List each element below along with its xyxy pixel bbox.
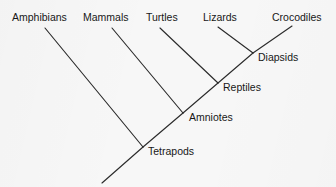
- taxon-label-amphibians: Amphibians: [12, 11, 67, 23]
- branch-root-stem: [102, 147, 143, 183]
- phylogenetic-tree-diagram: AmphibiansMammalsTurtlesLizardsCrocodile…: [0, 0, 336, 187]
- taxon-label-lizards: Lizards: [203, 11, 237, 23]
- taxon-label-turtles: Turtles: [146, 11, 178, 23]
- taxon-label-crocodiles: Crocodiles: [272, 11, 322, 23]
- branch-lizards: [218, 27, 253, 53]
- clade-label-diapsids: Diapsids: [258, 51, 298, 63]
- taxon-label-layer: AmphibiansMammalsTurtlesLizardsCrocodile…: [12, 11, 322, 23]
- branch-amphibians: [45, 28, 143, 147]
- branch-diapsids-to-reptiles: [218, 53, 253, 83]
- branch-reptiles-to-amniotes: [183, 83, 218, 113]
- taxon-label-mammals: Mammals: [83, 11, 129, 23]
- branch-turtles: [160, 28, 218, 83]
- branch-amniotes-to-tetrapods: [143, 113, 183, 147]
- branch-crocodiles: [253, 26, 292, 53]
- clade-label-layer: DiapsidsReptilesAmniotesTetrapods: [148, 51, 298, 157]
- clade-label-reptiles: Reptiles: [223, 81, 261, 93]
- branch-mammals: [112, 28, 183, 113]
- clade-label-tetrapods: Tetrapods: [148, 145, 194, 157]
- clade-label-amniotes: Amniotes: [189, 111, 233, 123]
- branch-layer: [45, 26, 292, 183]
